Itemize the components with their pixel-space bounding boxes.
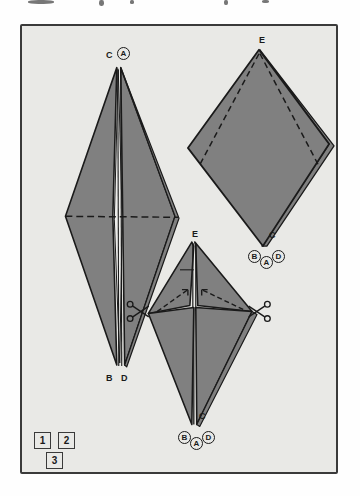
step-badge-1[interactable]: 1 [34, 432, 51, 449]
bottom-figure-apex-label-e: E [192, 230, 198, 239]
upper-right-label-a: A [260, 256, 273, 269]
step-badge-3[interactable]: 3 [46, 452, 63, 469]
bottom-figure-lower-right-panel [196, 307, 252, 424]
left-figure-bottom-label-d: D [121, 374, 128, 383]
bottom-figure-label-d: D [202, 431, 215, 444]
upper-right-label-d: D [272, 250, 285, 263]
origami-diagram [22, 26, 336, 472]
upper-right-apex-label-e: E [259, 36, 265, 45]
scan-artifact-5 [262, 0, 269, 3]
figure-panel: C A B D E C B A D E C B A D 1 2 3 [20, 24, 338, 474]
scan-artifact-1 [28, 0, 54, 4]
bottom-figure-upper-right-wing [195, 242, 252, 311]
step-badge-2[interactable]: 2 [58, 432, 75, 449]
bottom-figure-label-a: A [190, 437, 203, 450]
scan-artifact-2 [99, 0, 104, 6]
scan-artifact-3 [130, 0, 134, 4]
bottom-figure-inner-label-c: C [199, 412, 206, 421]
left-figure-apex-label-a: A [117, 47, 130, 60]
left-figure-apex-label-c: C [106, 51, 113, 60]
upper-right-inner-label-c: C [269, 231, 276, 240]
scan-artifact-4 [224, 0, 228, 5]
upper-right-kite-body [188, 50, 329, 246]
figure-upper-right-group [188, 50, 334, 246]
page-root: C A B D E C B A D E C B A D 1 2 3 [0, 0, 360, 496]
bottom-figure-lower-left-panel [148, 307, 193, 424]
left-figure-bottom-label-b: B [106, 374, 113, 383]
